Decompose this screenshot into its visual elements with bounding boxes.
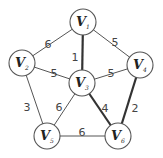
edge-weight-label: 5 — [108, 67, 115, 80]
edge-weight-label: 2 — [132, 102, 139, 115]
node-subscript: 2 — [24, 64, 29, 71]
node-subscript: 1 — [86, 23, 90, 30]
node-v4: V4 — [127, 52, 153, 78]
node-subscript: 4 — [142, 66, 147, 73]
node-v1: V1 — [70, 9, 96, 35]
node-subscript: 5 — [50, 137, 54, 144]
edge-weight-label: 4 — [102, 102, 109, 115]
node-subscript: 6 — [121, 137, 125, 144]
node-subscript: 3 — [85, 84, 89, 91]
node-v3: V3 — [69, 70, 95, 96]
weighted-graph-diagram: 6155536426 V1V2V3V4V5V6 — [0, 0, 163, 158]
node-v2: V2 — [9, 50, 35, 76]
edge-weight-label: 6 — [79, 126, 86, 139]
edge-weight-label: 1 — [72, 51, 79, 64]
edge-weight-label: 3 — [24, 101, 31, 114]
edge-weight-label: 5 — [112, 36, 119, 49]
edge-weight-label: 6 — [56, 101, 63, 114]
node-v5: V5 — [34, 123, 60, 149]
edge-weight-label: 6 — [45, 38, 52, 51]
node-v6: V6 — [105, 123, 131, 149]
edge-weight-label: 5 — [51, 67, 58, 80]
